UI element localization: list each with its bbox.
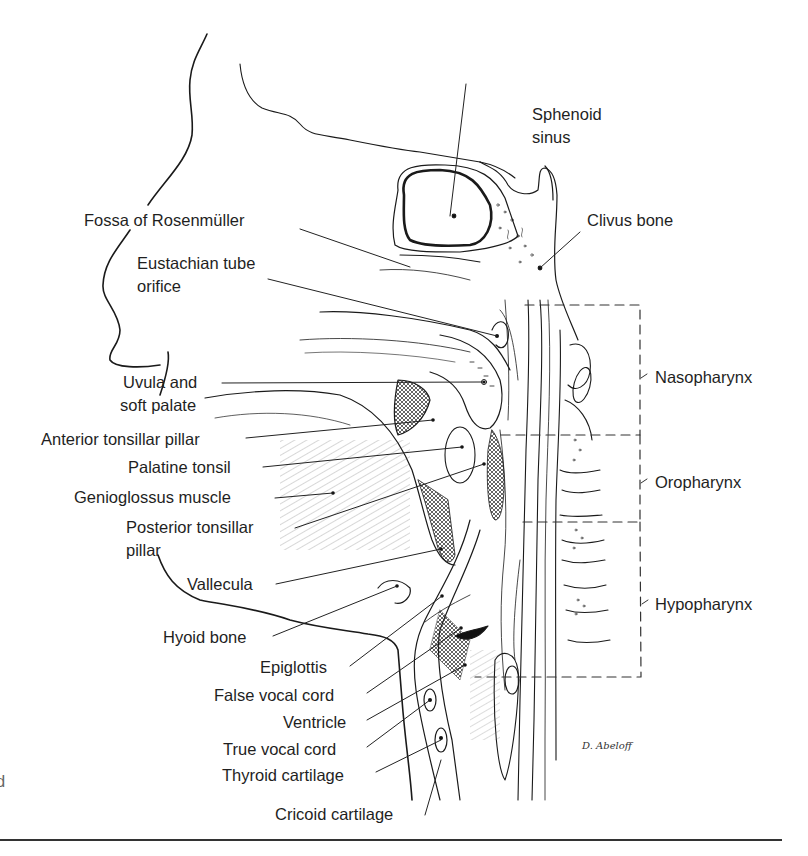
pharyngeal-wall-spine xyxy=(500,300,610,800)
label-posterior-line2: pillar xyxy=(126,539,253,562)
label-true-vocal-cord: True vocal cord xyxy=(223,738,336,761)
label-posterior-tonsillar-pillar: Posterior tonsillar pillar xyxy=(126,516,253,562)
label-cricoid-cartilage: Cricoid cartilage xyxy=(275,803,393,826)
label-hypopharynx: Hypopharynx xyxy=(655,593,752,616)
bottom-divider xyxy=(0,839,782,841)
label-uvula-line2: soft palate xyxy=(120,394,197,417)
label-nasopharynx: Nasopharynx xyxy=(655,366,752,389)
label-posterior-line1: Posterior tonsillar xyxy=(126,516,253,539)
nasal-cavity-outline xyxy=(240,64,515,370)
label-anterior-tonsillar-pillar: Anterior tonsillar pillar xyxy=(41,428,200,451)
label-eustachian-line2: orifice xyxy=(137,275,255,298)
label-sphenoid-sinus-line1: Sphenoid xyxy=(532,103,602,126)
label-sphenoid-sinus: Sphenoid sinus xyxy=(532,103,602,149)
sphenoid-clivus xyxy=(393,162,578,340)
label-fossa-of-rosenmuller: Fossa of Rosenmüller xyxy=(84,209,244,232)
label-vallecula: Vallecula xyxy=(187,573,253,596)
artist-signature: D. Abeloff xyxy=(582,740,632,751)
label-oropharynx: Oropharynx xyxy=(655,471,741,494)
label-uvula-line1: Uvula and xyxy=(120,371,197,394)
label-epiglottis: Epiglottis xyxy=(260,656,327,679)
label-uvula-soft-palate: Uvula and soft palate xyxy=(120,371,197,417)
label-clivus-bone: Clivus bone xyxy=(587,209,673,232)
label-genioglossus-muscle: Genioglossus muscle xyxy=(74,486,231,509)
label-ventricle: Ventricle xyxy=(283,711,346,734)
label-thyroid-cartilage: Thyroid cartilage xyxy=(222,764,344,787)
anatomy-figure: Sphenoid sinus Clivus bone Fossa of Rose… xyxy=(0,0,808,856)
label-sphenoid-sinus-line2: sinus xyxy=(532,126,602,149)
label-palatine-tonsil: Palatine tonsil xyxy=(128,456,231,479)
label-false-vocal-cord: False vocal cord xyxy=(214,684,334,707)
label-eustachian-tube-orifice: Eustachian tube orifice xyxy=(137,252,255,298)
soft-palate xyxy=(430,310,518,429)
label-eustachian-line1: Eustachian tube xyxy=(137,252,255,275)
edge-text-fragment: d xyxy=(0,770,5,793)
label-hyoid-bone: Hyoid bone xyxy=(163,626,246,649)
